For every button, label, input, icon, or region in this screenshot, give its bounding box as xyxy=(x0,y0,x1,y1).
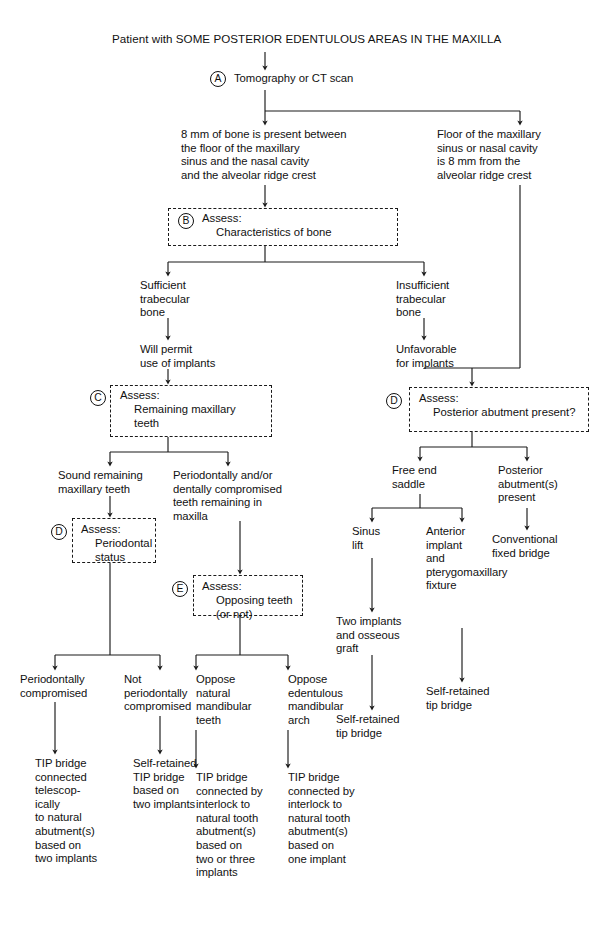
node-outcome-interlock-one-implant: TIP bridge connected by interlock to nat… xyxy=(288,771,355,866)
node-not-periodontally-compromised: Not periodontally compromised xyxy=(124,673,191,714)
node-8mm-bone-present: 8 mm of bone is present between the floo… xyxy=(181,128,347,182)
node-insufficient-trabecular-bone: Insufficient trabecular bone xyxy=(396,279,449,320)
assess-d-left-body: Periodontal status xyxy=(95,537,152,565)
node-conventional-fixed-bridge: Conventional fixed bridge xyxy=(492,533,557,560)
assess-b-head: Assess: xyxy=(202,212,242,226)
marker-d-right-circle: D xyxy=(386,393,402,409)
assess-b-body: Characteristics of bone xyxy=(216,226,332,240)
marker-b-circle: B xyxy=(178,213,194,229)
assess-c-head: Assess: xyxy=(120,389,160,403)
node-will-permit-implants: Will permit use of implants xyxy=(140,343,215,370)
assess-c-body: Remaining maxillary teeth xyxy=(134,403,236,431)
node-free-end-saddle: Free end saddle xyxy=(392,464,437,491)
marker-c-circle: C xyxy=(90,390,106,406)
assess-e-body: Opposing teeth (or not) xyxy=(216,594,293,622)
assess-d-left-head: Assess: xyxy=(81,523,121,537)
node-unfavorable-for-implants: Unfavorable for implants xyxy=(396,343,456,370)
node-floor-8mm-from-crest: Floor of the maxillary sinus or nasal ca… xyxy=(437,128,541,182)
node-outcome-self-retained-two-implants: Self-retained TIP bridge based on two im… xyxy=(133,757,196,811)
assess-d-right-body: Posterior abutment present? xyxy=(433,406,576,420)
node-tomography-ct-scan: Tomography or CT scan xyxy=(234,72,353,86)
node-sufficient-trabecular-bone: Sufficient trabecular bone xyxy=(140,279,190,320)
assess-e-head: Assess: xyxy=(202,580,242,594)
node-sinus-lift: Sinus lift xyxy=(352,525,380,552)
node-outcome-interlock-two-or-three: TIP bridge connected by interlock to nat… xyxy=(196,771,263,880)
marker-e-circle: E xyxy=(172,581,188,597)
node-self-retained-tip-bridge-right: Self-retained tip bridge xyxy=(426,685,489,712)
marker-d-left-circle: D xyxy=(51,524,67,540)
node-root-title: Patient with SOME POSTERIOR EDENTULOUS A… xyxy=(112,32,501,46)
node-periodontally-compromised: Periodontally compromised xyxy=(20,673,87,700)
flowchart-canvas: Patient with SOME POSTERIOR EDENTULOUS A… xyxy=(0,0,608,931)
node-oppose-edentulous-mandibular-arch: Oppose edentulous mandibular arch xyxy=(288,673,343,727)
node-posterior-abutments-present: Posterior abutment(s) present xyxy=(498,464,558,505)
node-self-retained-tip-bridge-mid: Self-retained tip bridge xyxy=(336,713,399,740)
assess-d-right-head: Assess: xyxy=(419,392,459,406)
node-outcome-tip-bridge-telescopic: TIP bridge connected telescop- ically to… xyxy=(35,757,97,866)
marker-a-circle: A xyxy=(210,71,226,87)
node-oppose-natural-mandibular-teeth: Oppose natural mandibular teeth xyxy=(196,673,251,727)
node-sound-remaining-maxillary-teeth: Sound remaining maxillary teeth xyxy=(58,469,143,496)
node-perio-dentally-compromised-teeth: Periodontally and/or dentally compromise… xyxy=(173,469,282,523)
node-two-implants-osseous-graft: Two implants and osseous graft xyxy=(336,615,401,656)
